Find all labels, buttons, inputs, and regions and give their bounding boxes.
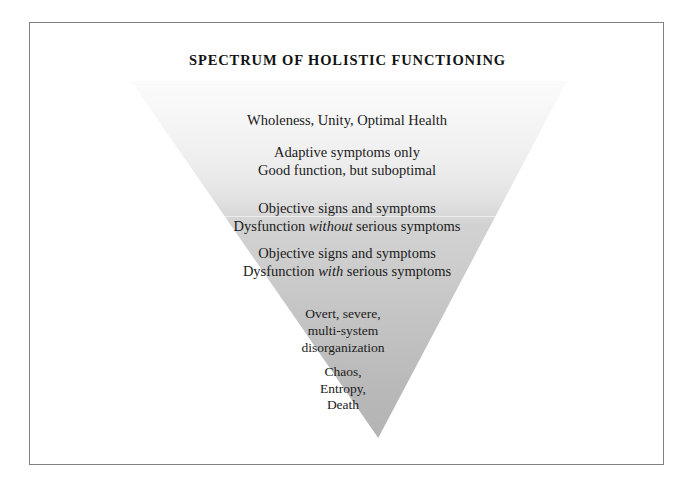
tier-6-line-3: Death xyxy=(0,397,690,414)
tier-5-line-3: disorganization xyxy=(0,339,690,356)
tier-3-line-2-pre: Dysfunction xyxy=(234,218,309,234)
tier-1-line-1: Wholeness, Unity, Optimal Health xyxy=(0,111,694,129)
tier-3-line-2: Dysfunction without serious symptoms xyxy=(0,217,694,235)
tier-4-line-2: Dysfunction with serious symptoms xyxy=(0,262,694,280)
tier-3-line-1: Objective signs and symptoms xyxy=(0,199,694,217)
tier-6-label: Chaos, Entropy, Death xyxy=(0,364,690,414)
tier-4-line-1: Objective signs and symptoms xyxy=(0,244,694,262)
tier-4-line-2-post: serious symptoms xyxy=(343,263,451,279)
tier-6-line-2: Entropy, xyxy=(0,381,690,398)
tier-5-line-2: multi-system xyxy=(0,322,690,339)
tier-4-label: Objective signs and symptoms Dysfunction… xyxy=(0,244,694,280)
figure-canvas: SPECTRUM OF HOLISTIC FUNCTIONING Wholene… xyxy=(0,0,694,496)
tier-6-line-1: Chaos, xyxy=(0,364,690,381)
tier-3-line-2-post: serious symptoms xyxy=(352,218,460,234)
tier-4-line-2-emphasis: with xyxy=(318,263,343,279)
tier-4-line-2-pre: Dysfunction xyxy=(243,263,318,279)
tier-2-label: Adaptive symptoms only Good function, bu… xyxy=(0,143,694,179)
tier-2-line-2: Good function, but suboptimal xyxy=(0,161,694,179)
tier-1-label: Wholeness, Unity, Optimal Health xyxy=(0,111,694,129)
page-title: SPECTRUM OF HOLISTIC FUNCTIONING xyxy=(30,52,665,69)
tier-5-label: Overt, severe, multi-system disorganizat… xyxy=(0,305,690,356)
tier-2-line-1: Adaptive symptoms only xyxy=(0,143,694,161)
tier-3-line-2-emphasis: without xyxy=(309,218,353,234)
tier-5-line-1: Overt, severe, xyxy=(0,305,690,322)
tier-3-label: Objective signs and symptoms Dysfunction… xyxy=(0,199,694,235)
